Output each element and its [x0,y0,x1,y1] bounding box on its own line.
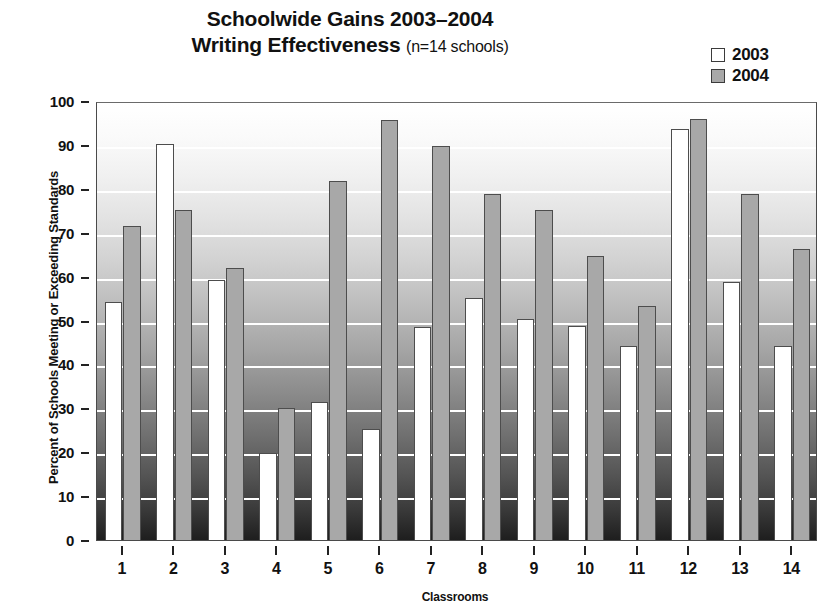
chart-figure: Schoolwide Gains 2003–2004 Writing Effec… [0,0,833,616]
chart-subtitle-main: Writing Effectiveness [191,33,400,56]
x-tick-mark [430,546,432,555]
x-tick-label: 6 [359,560,399,578]
y-tick-label: 10 [28,489,74,504]
x-tick-mark [533,546,535,555]
bar-2003-class-5 [311,402,329,540]
y-tick-mark [81,452,89,454]
x-tick-label: 11 [617,560,657,578]
bar-2003-class-7 [414,327,432,540]
bar-2003-class-13 [723,282,741,540]
x-tick-label: 4 [256,560,296,578]
x-tick-mark [378,546,380,555]
bar-2004-class-2 [175,210,193,540]
legend-label-2003: 2003 [732,46,769,63]
x-tick-mark [327,546,329,555]
bar-2003-class-1 [105,302,123,540]
x-tick-label: 5 [308,560,348,578]
legend-swatch-2004 [711,69,725,83]
bar-2004-class-7 [432,146,450,540]
bar-2003-class-10 [568,326,586,540]
x-tick-label: 7 [411,560,451,578]
bar-2003-class-14 [774,346,792,540]
legend-label-2004: 2004 [732,67,769,84]
y-tick-label: 100 [28,94,74,109]
chart-sample-size: (n=14 schools) [406,38,509,55]
y-tick-mark [81,277,89,279]
chart-title-block: Schoolwide Gains 2003–2004 Writing Effec… [0,6,700,60]
x-tick-label: 12 [668,560,708,578]
y-tick-mark [81,540,89,542]
plot-area [96,102,817,541]
x-tick-mark [584,546,586,555]
bar-2004-class-8 [484,194,502,540]
bar-2003-class-4 [259,453,277,540]
y-tick-mark [81,496,89,498]
legend-item-2003: 2003 [711,44,821,65]
bar-2003-class-2 [156,144,174,540]
y-tick-label: 80 [28,182,74,197]
legend-swatch-2003 [711,48,725,62]
y-tick-label: 50 [28,314,74,329]
x-tick-mark [224,546,226,555]
x-tick-label: 10 [565,560,605,578]
x-tick-mark [275,546,277,555]
x-tick-mark [739,546,741,555]
x-tick-label: 9 [514,560,554,578]
bar-2004-class-1 [123,226,141,540]
y-tick-label: 70 [28,226,74,241]
bar-2004-class-14 [793,249,811,540]
x-tick-mark [687,546,689,555]
bar-2003-class-12 [671,129,689,540]
bar-2004-class-13 [741,194,759,540]
x-tick-label: 1 [102,560,142,578]
y-tick-label: 0 [28,533,74,548]
x-tick-label: 8 [462,560,502,578]
bar-2004-class-10 [587,256,605,540]
x-tick-mark [121,546,123,555]
x-tick-label: 13 [720,560,760,578]
x-tick-mark [481,546,483,555]
y-tick-mark [81,101,89,103]
bar-2004-class-3 [226,268,244,540]
x-tick-label: 3 [205,560,245,578]
y-tick-mark [81,233,89,235]
y-tick-mark [81,189,89,191]
chart-legend: 2003 2004 [711,44,821,86]
bar-2003-class-11 [620,346,638,540]
x-tick-mark [636,546,638,555]
x-axis-title: Classrooms [95,590,815,604]
bar-2004-class-6 [381,120,399,540]
bar-2004-class-9 [535,210,553,540]
y-tick-mark [81,408,89,410]
x-tick-label: 14 [771,560,811,578]
y-tick-label: 30 [28,401,74,416]
legend-item-2004: 2004 [711,65,821,86]
bar-2003-class-3 [208,280,226,540]
bar-2003-class-8 [465,298,483,540]
y-tick-mark [81,145,89,147]
y-tick-mark [81,364,89,366]
bar-2003-class-9 [517,319,535,540]
bar-2004-class-11 [638,306,656,540]
bar-2003-class-6 [362,429,380,540]
bar-2004-class-5 [329,181,347,540]
x-tick-mark [790,546,792,555]
chart-title-line-2: Writing Effectiveness (n=14 schools) [0,32,700,60]
x-tick-mark [172,546,174,555]
y-tick-label: 20 [28,445,74,460]
bar-2004-class-4 [278,408,296,540]
y-tick-mark [81,321,89,323]
y-tick-label: 40 [28,357,74,372]
y-tick-label: 60 [28,270,74,285]
chart-title-line-1: Schoolwide Gains 2003–2004 [0,6,700,32]
y-tick-label: 90 [28,138,74,153]
bar-2004-class-12 [690,119,708,540]
x-tick-label: 2 [153,560,193,578]
bars-layer [97,103,816,540]
